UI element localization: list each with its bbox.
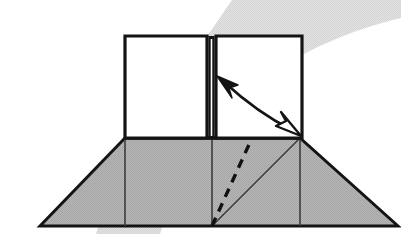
figure-container (0, 0, 401, 234)
folding-diagram-svg (0, 0, 401, 234)
panel-left (125, 36, 207, 138)
